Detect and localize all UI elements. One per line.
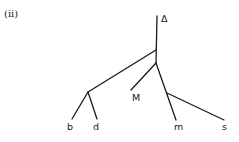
root-label: Δ — [161, 13, 168, 24]
root-edge — [156, 16, 157, 63]
edge-to-d — [88, 92, 97, 119]
leaf-label-b: b — [67, 121, 73, 132]
edge-to-m — [156, 63, 176, 120]
leaf-label-M: M — [132, 92, 140, 103]
edge-to-s — [167, 93, 224, 120]
leaf-label-d: d — [93, 121, 99, 132]
leaf-label-s: s — [222, 121, 227, 132]
leaf-label-m: m — [174, 121, 183, 132]
tree-diagram: Δ M b d m s — [0, 0, 239, 142]
edge-to-bd-node — [88, 50, 156, 92]
edge-to-M — [131, 63, 156, 90]
edge-to-b — [72, 92, 88, 119]
